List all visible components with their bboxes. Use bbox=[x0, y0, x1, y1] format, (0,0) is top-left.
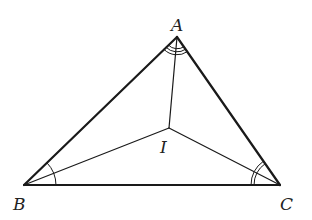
label-I: I bbox=[159, 137, 167, 157]
bisector-CI bbox=[169, 128, 280, 185]
side-AC bbox=[177, 37, 280, 185]
diagram-canvas: A B C I bbox=[0, 0, 312, 220]
label-B: B bbox=[12, 194, 26, 214]
label-C: C bbox=[280, 194, 293, 214]
triangle-diagram: A B C I bbox=[0, 0, 312, 220]
label-A: A bbox=[169, 15, 183, 35]
bisector-BI bbox=[24, 128, 169, 185]
